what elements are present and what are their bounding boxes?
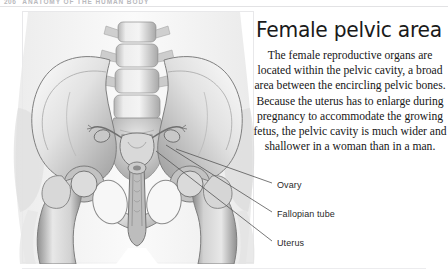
document-page: 206ANATOMY OF THE HUMAN BODY: [0, 0, 448, 275]
running-head-rule: [0, 6, 448, 7]
footer-rule: [22, 268, 426, 269]
page-title: Female pelvic area: [256, 17, 431, 42]
callout-label-uterus: Uterus: [277, 238, 304, 248]
callout-label-fallopian: Fallopian tube: [277, 209, 335, 219]
callout-label-ovary: Ovary: [277, 180, 302, 190]
page-number: 206: [4, 0, 16, 5]
running-head: 206ANATOMY OF THE HUMAN BODY: [4, 0, 149, 5]
running-head-title: ANATOMY OF THE HUMAN BODY: [22, 0, 149, 5]
body-paragraph: The female reproductive organs are locat…: [252, 48, 448, 154]
female-pelvis-illustration: [10, 12, 260, 264]
